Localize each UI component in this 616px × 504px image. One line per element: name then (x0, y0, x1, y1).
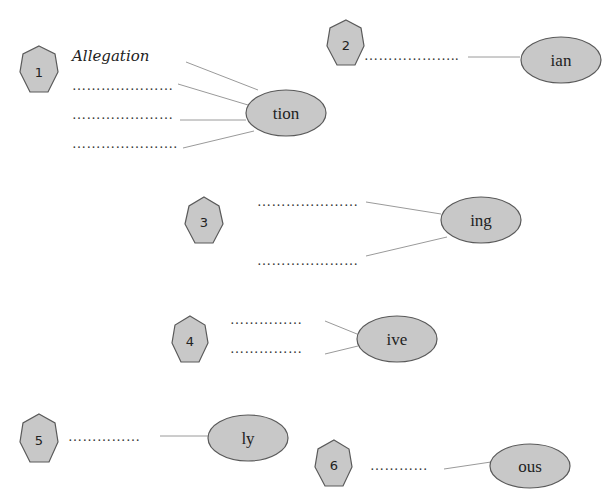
example-word: Allegation (70, 47, 149, 65)
group-number-4: 4 (186, 334, 194, 349)
group-5: 5 …………… ly (20, 414, 288, 462)
connector-6-0 (444, 462, 491, 469)
blank-3-2[interactable]: ………………… (257, 253, 359, 268)
blank-3-1[interactable]: ………………… (257, 194, 359, 209)
connector-1-0 (186, 62, 258, 90)
suffix-label-ive: ive (387, 330, 408, 349)
connector-4-1 (325, 346, 358, 354)
group-number-1: 1 (35, 65, 43, 80)
blank-2-1[interactable]: ……………….. (364, 48, 459, 63)
connector-3-1 (366, 237, 447, 256)
group-number-2: 2 (342, 38, 350, 53)
suffix-label-ous: ous (518, 457, 542, 476)
connector-1-3 (183, 131, 254, 148)
blank-1-1[interactable]: ………………… (72, 78, 174, 93)
group-2: 2 ……………….. ian (327, 20, 601, 83)
suffix-label-ing: ing (470, 211, 492, 230)
blank-6-1[interactable]: ………… (370, 458, 428, 473)
suffix-label-tion: tion (273, 104, 300, 123)
suffix-label-ly: ly (241, 429, 255, 448)
blank-5-1[interactable]: …………… (68, 429, 141, 444)
group-number-6: 6 (330, 458, 338, 473)
connector-1-1 (178, 84, 248, 105)
blank-1-2[interactable]: ………………… (72, 107, 174, 122)
group-3: 3 ………………… ………………… ing (185, 194, 521, 268)
group-6: 6 ………… ous (315, 440, 570, 488)
blank-1-3[interactable]: …………………. (72, 136, 178, 151)
connector-4-0 (325, 321, 357, 334)
blank-4-2[interactable]: …………… (230, 341, 303, 356)
group-4: 4 …………… …………… ive (172, 312, 437, 362)
group-number-3: 3 (200, 215, 208, 230)
suffix-word-diagram: 1 Allegation ………………… ………………… …………………. ti… (0, 0, 616, 504)
connector-3-0 (366, 202, 441, 214)
group-1: 1 Allegation ………………… ………………… …………………. ti… (20, 46, 326, 151)
suffix-label-ian: ian (551, 51, 572, 70)
group-number-5: 5 (35, 433, 43, 448)
blank-4-1[interactable]: …………… (230, 312, 303, 327)
